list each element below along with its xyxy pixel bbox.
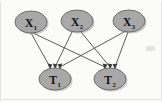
node-t2[interactable]: T2 [94,68,128,92]
node-t1-main: T [49,74,57,86]
edge-x3-t2 [115,32,128,67]
node-x3[interactable]: X3 [113,10,147,34]
node-x3-main: X [123,16,132,28]
diagram-canvas: X1 X2 X3 T1 [0,0,162,103]
bipartite-graph: X1 X2 X3 T1 [0,0,162,103]
node-x2-sub: 2 [80,23,83,30]
node-t2-sub: 2 [112,81,115,88]
edge-group [31,32,128,67]
node-x2[interactable]: X2 [61,10,95,34]
node-x1-main: X [25,17,34,29]
node-x1-sub: 1 [34,24,37,31]
node-t2-main: T [104,74,112,86]
scan-speck [146,46,155,51]
node-t1[interactable]: T1 [39,68,73,92]
node-t1-sub: 1 [57,81,60,88]
node-x1[interactable]: X1 [15,11,49,35]
edge-x1-t1 [31,33,50,67]
node-x2-main: X [71,16,80,28]
edge-x2-t2 [81,32,110,67]
